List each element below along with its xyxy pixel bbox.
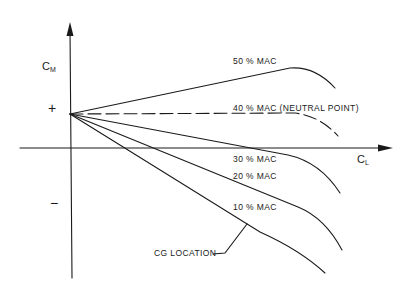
y-axis — [70, 30, 72, 278]
curve-20-mac — [70, 114, 342, 250]
x-axis-arrowhead — [378, 145, 393, 152]
label-50-mac: 50 % MAC — [233, 57, 277, 66]
label-40-mac-neutral-point: 40 % MAC (NEUTRAL POINT) — [233, 104, 359, 113]
curve-40-mac-neutral-point — [70, 113, 338, 136]
y-axis-label-main: C — [42, 60, 50, 72]
y-axis-arrowhead — [67, 22, 74, 36]
y-axis-label-sub: M — [50, 66, 56, 73]
x-axis-label: CL — [357, 154, 369, 166]
x-axis-label-main: C — [357, 153, 365, 165]
cg-location-leader — [213, 224, 247, 254]
positive-sign: + — [48, 101, 56, 115]
x-axis-label-sub: L — [365, 159, 369, 166]
label-30-mac: 30 % MAC — [233, 155, 277, 164]
label-20-mac: 20 % MAC — [233, 172, 277, 181]
label-10-mac: 10 % MAC — [233, 203, 277, 212]
curve-30-mac — [70, 114, 340, 193]
negative-sign: − — [50, 196, 58, 210]
label-cg-location: CG LOCATION — [154, 249, 216, 258]
y-axis-label: CM — [42, 61, 56, 73]
